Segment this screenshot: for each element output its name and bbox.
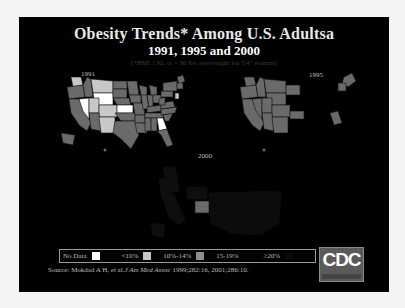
state-ak [151,223,165,237]
slide-subtitle: 1991, 1995 and 2000 [19,43,389,59]
slide: Obesity Trends* Among U.S. Adultsa 1991,… [19,17,389,292]
state-or [240,85,258,99]
legend-item-10-14: 10%-14% [163,252,204,260]
state-co [195,201,209,213]
legend-swatch [285,252,293,260]
legend-label: 15-19% [216,252,238,260]
state-mi [149,85,157,95]
map-2000 [151,163,291,245]
legend-swatch [143,252,151,260]
legend-label: <10% [122,252,139,260]
state-ut [89,98,99,113]
map-1995 [234,73,366,153]
legend-item-no-data: No Data [63,252,100,260]
state-ny [338,83,346,91]
state-ma [177,83,183,89]
state-ny [163,81,177,91]
slide-title: Obesity Trends* Among U.S. Adultsa [19,25,389,43]
state-ok [290,111,304,119]
us-states-2000 [151,167,281,237]
state-nd [286,85,300,95]
state-hi [263,149,266,152]
state-ia [129,95,141,103]
state-nm [99,117,115,133]
legend-label: No Data [63,252,87,260]
source-suffix: 1999;282:16, 2001;286:10. [171,266,249,274]
cdc-logo-text: CDC [320,249,363,271]
state-pa [161,91,173,97]
state-mt [91,79,113,93]
state-ok [115,113,135,121]
state-co [99,105,117,117]
legend-swatch [92,252,100,260]
state-al [151,118,157,131]
state-co [272,105,290,117]
legend-label: 10%-14% [163,252,191,260]
state-wy [187,187,207,199]
state-mt [264,79,286,93]
state-az [89,113,101,131]
state-or [159,177,179,193]
state-east [209,191,281,235]
state-tn [145,113,163,118]
legend-label: ≥20% [263,252,280,260]
source-citation: Source: Mokdad A H, et al.J Am Med Assoc… [48,266,248,274]
state-ca [161,193,185,225]
state-nm [272,117,288,133]
state-az [262,113,274,131]
state-fl [157,129,173,147]
map-1991 [61,73,193,153]
legend-item-ge20: ≥20% [263,252,293,260]
source-prefix: Source: Mokdad A H, et al. [48,266,124,274]
state-ga [330,111,342,125]
us-states-1991 [61,75,185,152]
state-or [67,85,85,99]
legend-item-15-19: 15-19% [216,252,238,260]
legend: No Data <10% 10%-14% 15-19% ≥20% [59,249,316,263]
state-nd [113,81,127,89]
state-tx [113,121,139,149]
legend-swatch [196,252,204,260]
state-ms [145,118,151,131]
map-year-2000: 2000 [198,152,212,160]
state-nj [175,93,179,99]
state-ut [262,98,272,113]
state-hi [104,149,107,152]
bmi-note: (*BMI ≥30, or ~ 30 lbs overweight for 5'… [19,59,389,67]
source-journal: J Am Med Assoc [124,266,170,274]
state-ne [113,98,131,105]
cdc-logo-strip [322,274,361,279]
state-ar [135,115,145,123]
state-ks [117,105,133,113]
legend-item-lt10: <10% [122,252,152,260]
state-sd [113,89,127,98]
us-states-1995 [240,73,356,152]
state-ak [61,133,75,145]
cdc-logo: CDC [319,247,364,282]
state-mn [127,81,139,95]
